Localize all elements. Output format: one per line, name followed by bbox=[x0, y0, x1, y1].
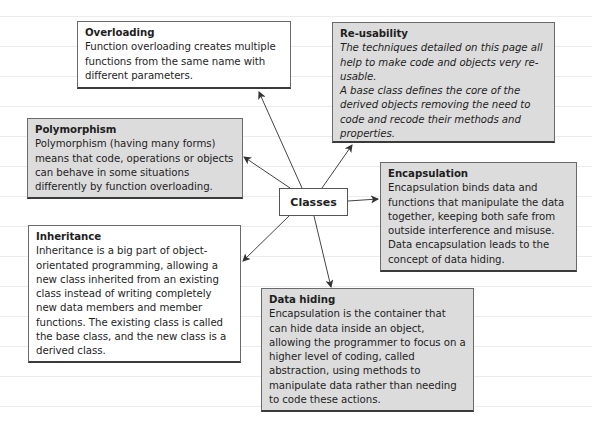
node-body: Function overloading creates multiple fu… bbox=[85, 40, 283, 83]
node-title: Polymorphism bbox=[35, 123, 235, 137]
arrow-to-data-hiding bbox=[314, 216, 331, 287]
node-body: Polymorphism (having many forms) means t… bbox=[35, 137, 235, 194]
node-title: Data hiding bbox=[269, 293, 466, 307]
arrow-to-reusability bbox=[322, 145, 352, 188]
node-reusability: Re-usability The techniques detailed on … bbox=[332, 22, 555, 143]
node-overloading: Overloading Function overloading creates… bbox=[77, 21, 291, 89]
arrow-to-polymorphism bbox=[244, 157, 290, 188]
node-body: Encapsulation binds data and functions t… bbox=[388, 181, 569, 267]
node-encapsulation: Encapsulation Encapsulation binds data a… bbox=[380, 162, 577, 272]
node-inheritance: Inheritance Inheritance is a big part of… bbox=[28, 225, 241, 363]
arrow-to-inheritance bbox=[243, 216, 289, 261]
node-title: Overloading bbox=[85, 26, 283, 40]
node-title: Re-usability bbox=[340, 27, 547, 41]
node-polymorphism: Polymorphism Polymorphism (having many f… bbox=[27, 118, 243, 199]
node-data-hiding: Data hiding Encapsulation is the contain… bbox=[261, 288, 474, 412]
center-label: Classes bbox=[290, 196, 336, 209]
node-title: Encapsulation bbox=[388, 167, 569, 181]
node-title: Inheritance bbox=[36, 230, 233, 244]
center-node-classes: Classes bbox=[279, 188, 348, 216]
node-body: The techniques detailed on this page all… bbox=[340, 41, 547, 141]
node-body: Inheritance is a big part of object-orie… bbox=[36, 244, 233, 358]
node-body: Encapsulation is the container that can … bbox=[269, 307, 466, 407]
arrow-to-encapsulation bbox=[348, 199, 378, 201]
arrow-to-overloading bbox=[259, 92, 302, 188]
